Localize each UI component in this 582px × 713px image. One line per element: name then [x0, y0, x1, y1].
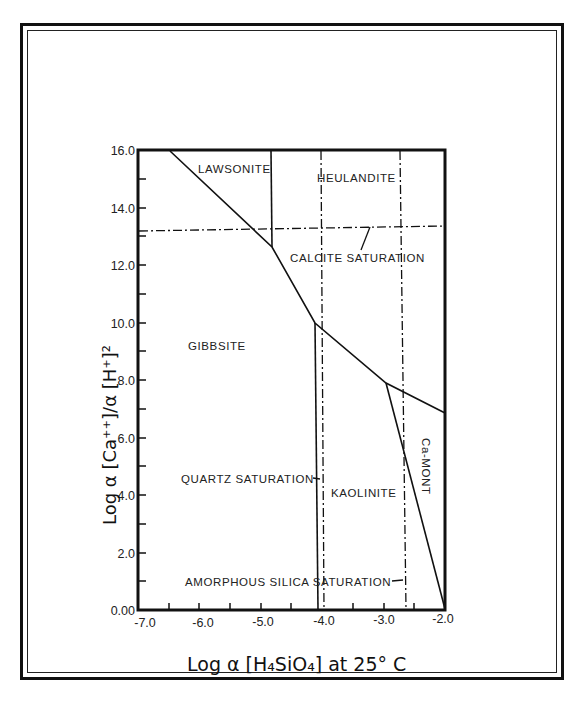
- x-axis-title: Log α [H₄SiO₄] at 25° C: [187, 653, 406, 675]
- y-tick-label: 16.0: [111, 144, 135, 158]
- x-tick-label: -3.0: [373, 613, 395, 627]
- lawsonite-heulandite-boundary: [271, 151, 272, 247]
- quartz-leader: [313, 478, 320, 479]
- region-label-ca-mont: Ca-MONT: [420, 438, 432, 495]
- label-leaders: [313, 227, 403, 581]
- y-tick-label: 4.0: [118, 489, 135, 503]
- x-tick-label: -5.0: [252, 615, 274, 629]
- calcite-saturation-line: [139, 226, 444, 231]
- y-tick-label: 10.0: [111, 317, 135, 331]
- quartz-saturation-label: QUARTZ SATURATION: [181, 473, 314, 485]
- y-tick-label: 14.0: [111, 202, 135, 216]
- gibbsite-kaolinite-boundary: [315, 323, 318, 609]
- x-tick-label: -4.0: [313, 614, 335, 628]
- amorphous-silica-saturation-label: AMORPHOUS SILICA SATURATION: [185, 576, 391, 588]
- amorphous-silica-saturation-line: [400, 151, 406, 609]
- amorphous-leader: [392, 580, 403, 581]
- region-label-lawsonite: LAWSONITE: [198, 163, 271, 175]
- quartz-saturation-line: [321, 151, 324, 609]
- x-tick-label: -2.0: [432, 612, 454, 626]
- calcite-leader: [361, 227, 370, 250]
- saturation-lines: [139, 151, 444, 609]
- region-label-heulandite: HEULANDITE: [317, 172, 396, 184]
- y-tick-label: 8.0: [118, 374, 135, 388]
- y-tick-label: 2.0: [118, 547, 135, 561]
- phase-diagram: 0.00 2.0 4.0 6.0 8.0 10.0 12.0 14.0 16.0…: [0, 0, 582, 713]
- gibbsite-upper-boundary: [170, 151, 445, 413]
- calcite-saturation-label: CALCITE SATURATION: [290, 252, 425, 264]
- y-tick-label: 12.0: [111, 259, 135, 273]
- y-axis-title: Log α [Ca⁺⁺]/α [H⁺]²: [99, 345, 120, 525]
- y-tick-label: 6.0: [118, 432, 135, 446]
- region-label-kaolinite: KAOLINITE: [331, 487, 396, 499]
- phase-boundaries: [170, 151, 445, 609]
- y-tick-label: 0.00: [111, 604, 135, 618]
- plot-area-border: [138, 150, 445, 610]
- x-tick-label: -6.0: [192, 616, 214, 630]
- x-tick-label: -7.0: [134, 616, 156, 630]
- x-axis-labels: -7.0 -6.0 -5.0 -4.0 -3.0 -2.0: [134, 612, 454, 630]
- region-label-gibbsite: GIBBSITE: [188, 340, 246, 352]
